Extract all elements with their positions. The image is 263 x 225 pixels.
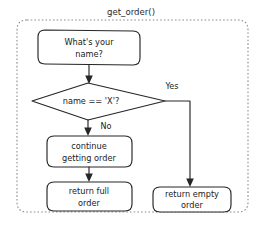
node-return-full-order-line-1: return full	[69, 186, 109, 196]
node-continue-getting-order-line-2: getting order	[62, 153, 116, 163]
node-continue-getting-order-line-1: continue	[71, 141, 107, 151]
node-prompt-name-line-2: name?	[75, 49, 103, 59]
arrow-head-check-yes	[186, 179, 194, 188]
edge-label-yes: Yes	[165, 82, 179, 91]
diagram-title: get_order()	[107, 7, 155, 17]
edge-check-yes	[165, 101, 190, 181]
edge-label-no: No	[101, 122, 112, 131]
node-name-check-label: name == 'X'?	[63, 96, 120, 106]
node-return-empty-order-line-2: order	[181, 200, 203, 210]
node-prompt-name	[38, 30, 140, 65]
arrow-head-check-no	[84, 128, 92, 137]
flowchart-diagram: get_order() What's your name? name == 'X…	[0, 0, 263, 225]
flowchart-canvas: get_order() What's your name? name == 'X…	[0, 0, 263, 225]
node-prompt-name-line-1: What's your	[64, 37, 114, 47]
arrow-head-continue-to-full	[85, 174, 93, 183]
node-return-full-order-line-2: order	[78, 198, 100, 208]
node-return-empty-order-line-1: return empty	[165, 189, 219, 199]
